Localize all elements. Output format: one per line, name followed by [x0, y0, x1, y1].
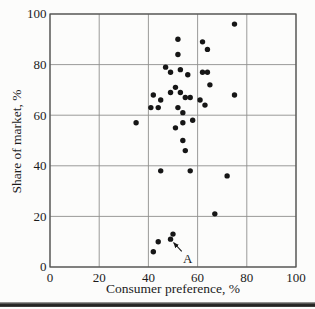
- annotation-group: A: [174, 243, 194, 266]
- x-tick-label: 20: [93, 270, 106, 285]
- data-point: [173, 85, 178, 90]
- x-tick-label: 80: [240, 270, 253, 285]
- data-point: [232, 92, 237, 97]
- data-point: [205, 47, 210, 52]
- y-tick-label: 20: [34, 209, 47, 224]
- data-point: [185, 72, 190, 77]
- y-tick-label: 40: [34, 158, 47, 173]
- data-point: [200, 39, 205, 44]
- data-point: [180, 110, 185, 115]
- data-point: [168, 236, 173, 241]
- data-point: [200, 69, 205, 74]
- data-point: [156, 105, 161, 110]
- page-rule: [0, 302, 315, 307]
- data-point: [178, 67, 183, 72]
- data-point: [224, 173, 229, 178]
- y-axis-tick-labels: 020406080100: [27, 6, 47, 274]
- annotation-a-arrow: [174, 243, 182, 252]
- data-point: [232, 21, 237, 26]
- x-axis-title: Consumer preference, %: [106, 281, 240, 296]
- data-point: [168, 69, 173, 74]
- data-point: [151, 249, 156, 254]
- data-point: [173, 125, 178, 130]
- data-point: [156, 239, 161, 244]
- data-point: [207, 82, 212, 87]
- scatter-plot: A 020406080100 020406080100 Consumer pre…: [0, 0, 315, 302]
- data-point: [202, 102, 207, 107]
- x-tick-label: 100: [286, 270, 306, 285]
- data-point: [163, 64, 168, 69]
- data-point: [158, 168, 163, 173]
- gridlines: [50, 14, 296, 267]
- data-point: [180, 120, 185, 125]
- data-points: [133, 21, 237, 254]
- data-point: [133, 120, 138, 125]
- y-tick-label: 100: [27, 6, 47, 21]
- data-point: [151, 92, 156, 97]
- x-tick-label: 0: [47, 270, 54, 285]
- data-point: [183, 148, 188, 153]
- y-axis-title: Share of market, %: [9, 89, 24, 193]
- data-point: [175, 52, 180, 57]
- data-point: [175, 105, 180, 110]
- data-point: [188, 95, 193, 100]
- data-point: [190, 118, 195, 123]
- plot-border: [50, 14, 296, 267]
- data-point: [183, 95, 188, 100]
- y-tick-label: 80: [34, 57, 47, 72]
- y-tick-label: 0: [40, 259, 47, 274]
- y-tick-label: 60: [34, 108, 47, 123]
- data-point: [178, 90, 183, 95]
- data-point: [180, 138, 185, 143]
- annotation-a-label: A: [183, 251, 193, 266]
- figure-container: A 020406080100 020406080100 Consumer pre…: [0, 0, 315, 309]
- data-point: [205, 69, 210, 74]
- data-point: [168, 90, 173, 95]
- data-point: [212, 211, 217, 216]
- data-point: [175, 37, 180, 42]
- data-point: [158, 97, 163, 102]
- data-point: [170, 231, 175, 236]
- data-point: [197, 97, 202, 102]
- data-point: [188, 168, 193, 173]
- data-point: [148, 105, 153, 110]
